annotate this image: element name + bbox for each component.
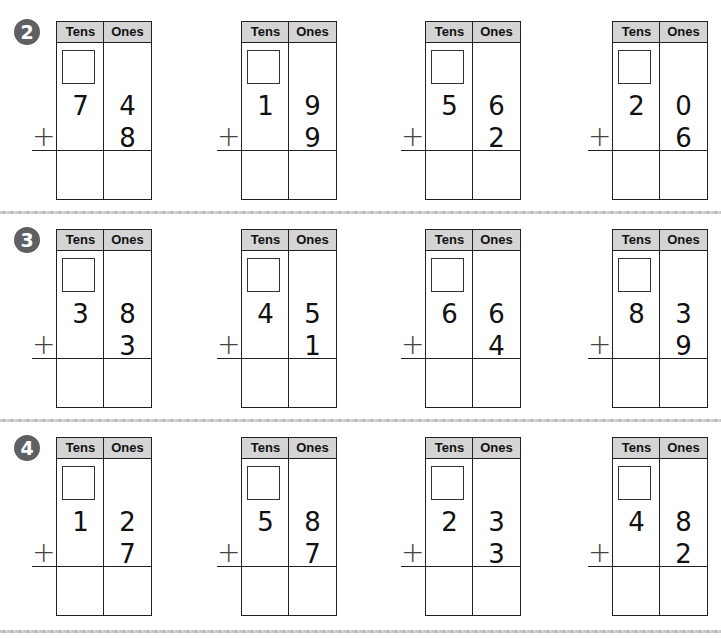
regroup-box[interactable] [247, 50, 280, 84]
section-divider [0, 630, 721, 633]
answer-ones-cell[interactable] [473, 361, 520, 406]
sum-line [32, 566, 151, 567]
tens-header: Tens [426, 230, 473, 250]
table-header: TensOnes [242, 22, 336, 43]
regroup-box[interactable] [618, 258, 651, 292]
regroup-box[interactable] [62, 258, 95, 292]
plus-sign: + [217, 126, 235, 148]
place-value-table: TensOnes748 [56, 21, 152, 200]
sum-line [401, 566, 520, 567]
place-value-table: TensOnes127 [56, 437, 152, 616]
place-value-table: TensOnes839 [612, 229, 708, 408]
ones-header: Ones [660, 438, 707, 458]
regroup-box[interactable] [618, 50, 651, 84]
addend-ones-digit: 9 [289, 123, 336, 153]
regroup-box[interactable] [431, 258, 464, 292]
tens-header: Tens [57, 22, 104, 42]
table-header: TensOnes [613, 438, 707, 459]
regroup-box[interactable] [62, 50, 95, 84]
tens-digit: 4 [613, 507, 660, 537]
answer-ones-cell[interactable] [104, 569, 151, 614]
answer-tens-cell[interactable] [57, 361, 104, 406]
sum-line [588, 358, 707, 359]
answer-ones-cell[interactable] [660, 569, 707, 614]
answer-tens-cell[interactable] [57, 153, 104, 198]
answer-tens-cell[interactable] [426, 153, 473, 198]
regroup-box[interactable] [247, 466, 280, 500]
place-value-table: TensOnes383 [56, 229, 152, 408]
plus-sign: + [588, 126, 606, 148]
answer-ones-cell[interactable] [104, 361, 151, 406]
addition-problem: TensOnes233+ [425, 437, 521, 616]
ones-digit: 3 [473, 507, 520, 537]
plus-sign: + [217, 542, 235, 564]
ones-digit: 8 [660, 507, 707, 537]
problem-number-badge: 3 [14, 227, 40, 253]
tens-digit: 2 [426, 507, 473, 537]
ones-header: Ones [289, 22, 336, 42]
answer-ones-cell[interactable] [289, 569, 336, 614]
tens-header: Tens [426, 438, 473, 458]
addend-ones-digit: 8 [104, 123, 151, 153]
addition-problem: TensOnes587+ [241, 437, 337, 616]
addition-problem: TensOnes383+ [56, 229, 152, 408]
addition-problem: TensOnes451+ [241, 229, 337, 408]
tens-digit: 4 [242, 299, 289, 329]
addend-ones-digit: 7 [104, 539, 151, 569]
ones-digit: 4 [104, 91, 151, 121]
tens-digit: 3 [57, 299, 104, 329]
answer-tens-cell[interactable] [242, 361, 289, 406]
place-value-table: TensOnes482 [612, 437, 708, 616]
ones-header: Ones [104, 22, 151, 42]
answer-tens-cell[interactable] [242, 569, 289, 614]
addend-ones-digit: 3 [104, 331, 151, 361]
answer-tens-cell[interactable] [242, 153, 289, 198]
answer-tens-cell[interactable] [57, 569, 104, 614]
tens-header: Tens [57, 230, 104, 250]
regroup-box[interactable] [247, 258, 280, 292]
answer-tens-cell[interactable] [613, 153, 660, 198]
answer-tens-cell[interactable] [613, 361, 660, 406]
addition-problem: TensOnes664+ [425, 229, 521, 408]
ones-digit: 8 [104, 299, 151, 329]
addition-problem: TensOnes206+ [612, 21, 708, 200]
answer-tens-cell[interactable] [613, 569, 660, 614]
sum-line [401, 150, 520, 151]
ones-digit: 6 [473, 299, 520, 329]
addend-ones-digit: 7 [289, 539, 336, 569]
plus-sign: + [588, 334, 606, 356]
place-value-table: TensOnes199 [241, 21, 337, 200]
plus-sign: + [32, 542, 50, 564]
plus-sign: + [401, 126, 419, 148]
table-header: TensOnes [426, 22, 520, 43]
problem-number-badge: 2 [14, 19, 40, 45]
regroup-box[interactable] [431, 466, 464, 500]
place-value-table: TensOnes587 [241, 437, 337, 616]
table-header: TensOnes [426, 438, 520, 459]
plus-sign: + [401, 542, 419, 564]
ones-digit: 9 [289, 91, 336, 121]
tens-digit: 1 [242, 91, 289, 121]
answer-tens-cell[interactable] [426, 569, 473, 614]
answer-ones-cell[interactable] [104, 153, 151, 198]
sum-line [401, 358, 520, 359]
ones-header: Ones [473, 230, 520, 250]
table-header: TensOnes [57, 230, 151, 251]
sum-line [217, 566, 336, 567]
regroup-box[interactable] [431, 50, 464, 84]
tens-digit: 5 [426, 91, 473, 121]
regroup-box[interactable] [62, 466, 95, 500]
answer-ones-cell[interactable] [660, 361, 707, 406]
answer-ones-cell[interactable] [289, 153, 336, 198]
addend-ones-digit: 9 [660, 331, 707, 361]
answer-ones-cell[interactable] [473, 569, 520, 614]
regroup-box[interactable] [618, 466, 651, 500]
answer-tens-cell[interactable] [426, 361, 473, 406]
answer-ones-cell[interactable] [473, 153, 520, 198]
ones-header: Ones [289, 438, 336, 458]
addend-ones-digit: 1 [289, 331, 336, 361]
place-value-table: TensOnes206 [612, 21, 708, 200]
ones-header: Ones [289, 230, 336, 250]
answer-ones-cell[interactable] [289, 361, 336, 406]
answer-ones-cell[interactable] [660, 153, 707, 198]
